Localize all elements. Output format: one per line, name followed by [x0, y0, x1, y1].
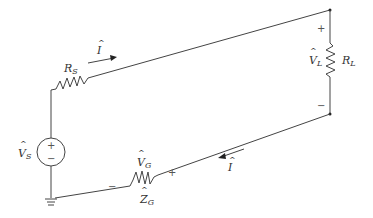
hat-vl: ^	[310, 46, 317, 55]
load-resistor-icon	[326, 10, 335, 114]
label-vs: VS	[18, 147, 32, 161]
hat-current-top: ^	[98, 38, 105, 47]
vg-minus: −	[108, 181, 116, 192]
load-plus: +	[317, 23, 325, 34]
label-vl: VL	[309, 54, 322, 68]
circuit-diagram: + − VS ^ RS I ^ RL VL ^ + − I ^ VG ^ + −…	[0, 0, 373, 218]
label-zg: ZG	[139, 193, 155, 207]
ground-icon	[45, 199, 57, 205]
top-wire	[88, 10, 330, 78]
hat-vs: ^	[20, 139, 27, 148]
hat-zg: ^	[141, 185, 148, 194]
source-resistor-icon	[51, 76, 88, 90]
bottom-wire	[158, 114, 330, 175]
vg-plus: +	[168, 167, 176, 178]
label-rl: RL	[341, 54, 356, 68]
source-minus: −	[47, 153, 55, 164]
ground-impedance-icon	[130, 171, 158, 186]
source-plus: +	[47, 140, 55, 151]
current-arrow-top-icon	[88, 55, 117, 63]
ground-wire	[55, 186, 130, 198]
hat-current-bottom: ^	[229, 155, 236, 164]
hat-vg: ^	[138, 148, 145, 157]
label-vg: VG	[137, 156, 152, 170]
load-minus: −	[317, 100, 325, 111]
label-rs: RS	[63, 62, 78, 76]
